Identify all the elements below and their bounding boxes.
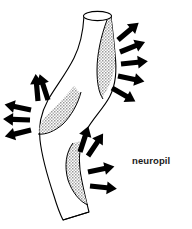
neuropil-diagram-svg (0, 0, 192, 229)
tube-top-rim (84, 11, 112, 20)
figure-canvas: neuropil (0, 0, 192, 229)
neuropil-label: neuropil (132, 155, 170, 166)
